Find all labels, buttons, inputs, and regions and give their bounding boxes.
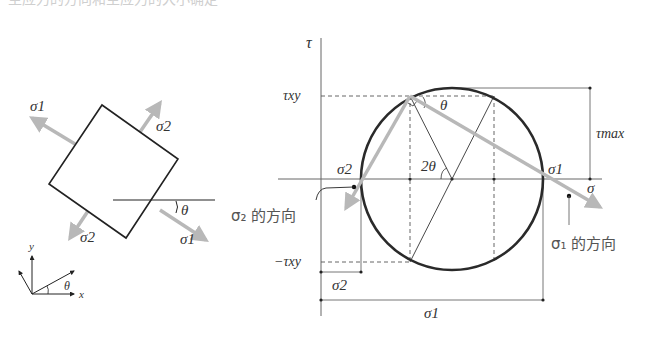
theta-label: θ: [440, 97, 448, 113]
sigma-axis-label: σ: [587, 180, 595, 196]
label-sigma1-top: σ1: [30, 98, 45, 114]
sigma1-arrow-upper: [32, 118, 75, 144]
sigma1-point-label: σ1: [548, 161, 563, 177]
mohr-circle-diagram: σ1 σ2 σ2 σ1 θ y x θ: [0, 0, 654, 341]
sigma2-point-label: σ2: [337, 161, 352, 177]
sigma2-direction-arrow: [346, 96, 410, 208]
label-theta: θ: [181, 202, 189, 218]
sigma2-dimension-label: σ2: [332, 277, 347, 293]
sigma1-dimension-label: σ1: [424, 305, 439, 321]
sigma1-direction-label: σ₁ 的方向: [551, 235, 616, 253]
tau-max-label: τmax: [596, 126, 625, 141]
theta-arc: [176, 201, 178, 213]
sigma2-direction-label: σ₂ 的方向: [231, 207, 296, 225]
axis-y-label: y: [28, 240, 34, 252]
stress-element: σ1 σ2 σ2 σ1 θ: [30, 98, 215, 247]
axis-theta-label: θ: [64, 279, 70, 293]
two-theta-label: 2θ: [421, 158, 437, 174]
tau-axis-label: τ: [306, 34, 313, 51]
label-sigma1-bottom: σ1: [180, 231, 195, 247]
neg-tau-xy-label: −τxy: [274, 254, 302, 269]
axes-icon: y x θ: [19, 240, 84, 300]
tau-xy-label: τxy: [283, 88, 301, 103]
label-sigma2-bottom: σ2: [80, 229, 95, 245]
mohr-circle: τ σ τxy −τxy τmax 2θ θ σ1 σ2 σ2 σ1 σ₂ 的方…: [231, 34, 625, 321]
label-sigma2-top: σ2: [156, 118, 171, 134]
axis-x-label: x: [78, 288, 84, 300]
